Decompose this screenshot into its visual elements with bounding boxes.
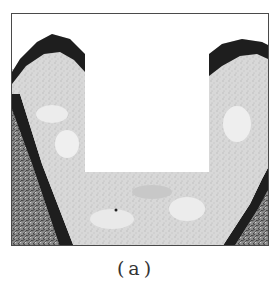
bone-tissue-image xyxy=(12,14,269,246)
figure-caption: (a) xyxy=(0,257,272,279)
micrograph-figure xyxy=(11,13,269,246)
